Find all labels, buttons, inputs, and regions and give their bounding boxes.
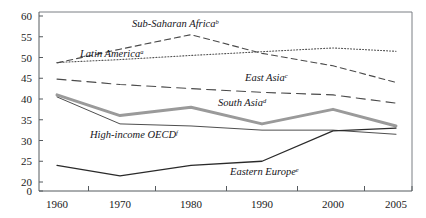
east-asia-annotation: East Asiac (244, 72, 288, 83)
x-tick-label: 2005 (385, 198, 408, 210)
footnote-marker: c (285, 72, 288, 79)
footnote-marker: d (263, 97, 267, 104)
x-tick-label: 1990 (251, 198, 274, 210)
footnote-marker: e (296, 166, 299, 173)
x-tick-label: 1970 (109, 198, 132, 210)
line-chart: 6055504540353025200 19601970198019902000… (0, 0, 426, 218)
eastern-europe-annotation: Eastern Europee (229, 166, 299, 177)
footnote-marker: b (216, 18, 220, 25)
y-tick-label: 30 (21, 135, 33, 147)
sub-saharan-africa-annotation: Sub-Saharan Africab (132, 18, 220, 29)
y-tick-label: 60 (21, 10, 33, 22)
x-tick-label: 1960 (46, 198, 69, 210)
x-tick-label: 2000 (322, 198, 345, 210)
y-tick-label: 40 (21, 93, 33, 105)
y-tick-label: 25 (21, 155, 33, 167)
chart-container: 6055504540353025200 19601970198019902000… (0, 0, 426, 218)
latin-america-annotation: Latin Americaa (79, 48, 143, 59)
footnote-marker: a (140, 48, 143, 55)
x-axis: 196019701980199020002005 (39, 186, 412, 210)
y-tick-label: 55 (21, 31, 33, 43)
south-asia-annotation: South Asiad (218, 97, 267, 108)
x-tick-label: 1980 (180, 198, 203, 210)
y-tick-label: 50 (21, 52, 33, 64)
y-tick-label: 35 (21, 114, 33, 126)
footnote-marker: f (176, 129, 179, 136)
high-income-oecd-annotation: High-income OECDf (89, 129, 179, 140)
y-tick-label: 45 (21, 72, 33, 84)
y-tick-label: 0 (27, 185, 33, 197)
y-axis: 6055504540353025200 (21, 10, 43, 197)
series-annotations: Sub-Saharan AfricabLatin AmericaaEast As… (79, 18, 299, 177)
